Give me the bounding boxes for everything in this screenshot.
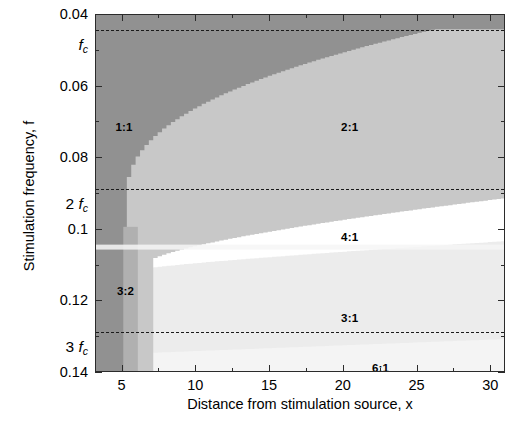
x-tick-label-1: 10 <box>187 377 203 393</box>
y-tick-major-right-1 <box>498 86 505 87</box>
y-annotation-label-2fc: 2 fc <box>66 195 89 213</box>
y-tick-major-1 <box>95 86 102 87</box>
y-tick-major-right-2 <box>498 157 505 158</box>
y-tick-major-right-5 <box>498 372 505 373</box>
x-tick-major-top-1 <box>195 14 196 21</box>
x-axis-title: Distance from stimulation source, x <box>95 396 505 412</box>
region-label-3-2: 3:2 <box>117 285 134 297</box>
y-tick-label-3: 0.1 <box>68 221 88 237</box>
y-tick-label-5: 0.14 <box>60 364 88 380</box>
y-tick-minor-right-3 <box>501 265 505 266</box>
x-tick-minor-3 <box>380 368 381 372</box>
y-tick-major-0 <box>95 14 102 15</box>
y-tick-major-2 <box>95 157 102 158</box>
figure-root: 1:1 3:2 2:1 4:1 3:1 6:1 0.040.060.080.10… <box>0 0 525 422</box>
x-tick-minor-4 <box>453 368 454 372</box>
y-tick-minor-1 <box>95 121 99 122</box>
y-axis-title: Stimulation frequency, f <box>21 56 37 336</box>
y-tick-label-1: 0.06 <box>60 78 88 94</box>
x-tick-minor-top-0 <box>158 14 159 18</box>
reference-line-fc <box>96 30 504 31</box>
y-tick-major-right-3 <box>498 229 505 230</box>
y-tick-label-2: 0.08 <box>60 149 88 165</box>
region-label-6-1: 6:1 <box>372 362 389 372</box>
y-tick-label-0: 0.04 <box>60 6 88 22</box>
region-label-3-1: 3:1 <box>341 312 358 324</box>
x-tick-major-2 <box>269 365 270 372</box>
y-tick-minor-2 <box>95 193 99 194</box>
y-annotation-label-fc: fc <box>78 36 88 54</box>
reference-line-2fc <box>96 189 504 190</box>
y-tick-major-4 <box>95 300 102 301</box>
y-tick-major-right-4 <box>498 300 505 301</box>
y-tick-label-4: 0.12 <box>60 292 88 308</box>
y-tick-minor-right-0 <box>501 50 505 51</box>
x-tick-major-3 <box>343 365 344 372</box>
x-tick-major-5 <box>490 365 491 372</box>
x-tick-major-top-2 <box>269 14 270 21</box>
y-tick-minor-4 <box>95 336 99 337</box>
x-tick-label-5: 30 <box>482 377 498 393</box>
x-tick-major-top-4 <box>417 14 418 21</box>
x-tick-major-top-3 <box>343 14 344 21</box>
x-tick-major-4 <box>417 365 418 372</box>
y-tick-minor-right-2 <box>501 193 505 194</box>
x-tick-major-1 <box>195 365 196 372</box>
x-tick-label-3: 20 <box>335 377 351 393</box>
x-tick-minor-top-3 <box>380 14 381 18</box>
region-label-4-1: 4:1 <box>341 231 358 243</box>
y-tick-minor-right-4 <box>501 336 505 337</box>
x-tick-minor-top-4 <box>453 14 454 18</box>
y-tick-major-right-0 <box>498 14 505 15</box>
region-label-2-1: 2:1 <box>341 121 358 133</box>
x-tick-minor-0 <box>158 368 159 372</box>
y-tick-minor-0 <box>95 50 99 51</box>
y-tick-major-3 <box>95 229 102 230</box>
mode-locking-regions <box>96 15 504 371</box>
x-tick-minor-1 <box>232 368 233 372</box>
plot-area: 1:1 3:2 2:1 4:1 3:1 6:1 <box>95 14 505 372</box>
y-tick-major-5 <box>95 372 102 373</box>
x-tick-major-top-5 <box>490 14 491 21</box>
x-tick-major-0 <box>122 365 123 372</box>
x-tick-label-4: 25 <box>408 377 424 393</box>
x-tick-major-top-0 <box>122 14 123 21</box>
x-tick-minor-top-1 <box>232 14 233 18</box>
reference-line-3fc <box>96 332 504 333</box>
y-tick-minor-right-1 <box>501 121 505 122</box>
x-tick-label-2: 15 <box>261 377 277 393</box>
x-tick-minor-top-2 <box>306 14 307 18</box>
y-annotation-label-3fc: 3 fc <box>66 338 89 356</box>
region-label-1-1: 1:1 <box>115 121 132 133</box>
x-tick-minor-2 <box>306 368 307 372</box>
y-tick-minor-3 <box>95 265 99 266</box>
x-tick-label-0: 5 <box>117 377 125 393</box>
